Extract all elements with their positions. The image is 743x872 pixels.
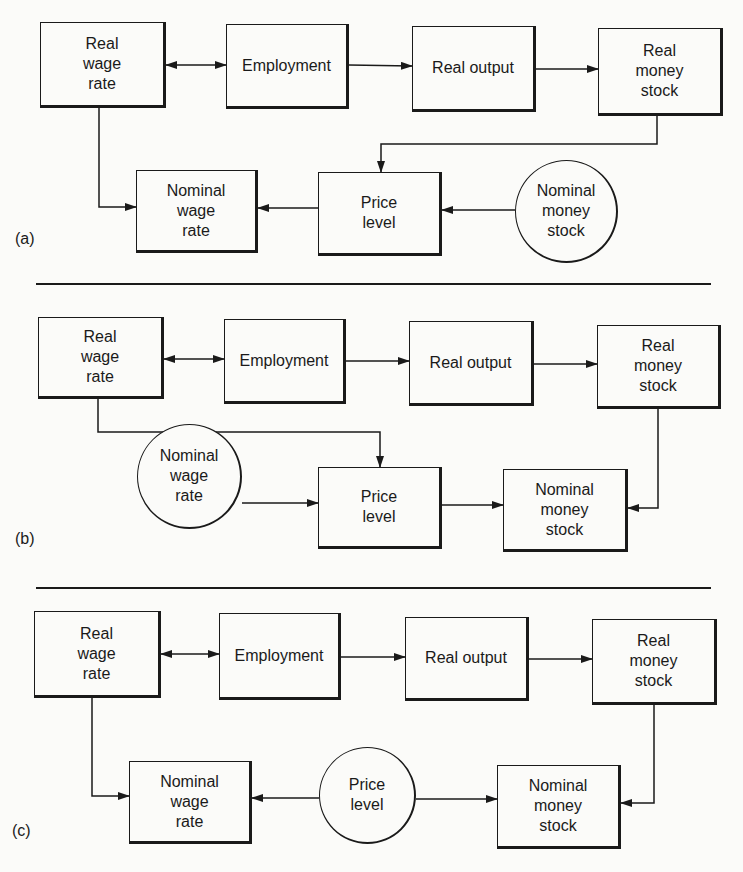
- diagram-connectors: [0, 0, 743, 872]
- arrow-realmoney-price-a: [381, 116, 657, 172]
- separator-bc: [36, 587, 711, 589]
- node-nominal-money-stock: Nominal money stock: [503, 469, 628, 552]
- arrow-realmoney-nominalmoney-b: [628, 409, 658, 508]
- node-nominal-wage-rate: Nominal wage rate: [129, 761, 252, 844]
- node-nominal-money-stock: Nominal money stock: [497, 765, 621, 849]
- node-employment: Employment: [224, 319, 346, 404]
- panel-label-a: (a): [15, 230, 35, 248]
- arrow-realmoney-nominalmoney-c: [621, 705, 654, 803]
- node-real-output: Real output: [412, 26, 536, 112]
- node-nominal-wage-rate-exogenous: Nominal wage rate: [137, 424, 242, 529]
- panel-label-c: (c): [12, 822, 31, 840]
- node-real-output: Real output: [409, 321, 534, 406]
- arrow-realwage-nominalwage-a: [99, 108, 136, 207]
- node-real-wage-rate: Real wage rate: [38, 317, 164, 399]
- node-real-wage-rate: Real wage rate: [40, 22, 166, 108]
- separator-ab: [36, 283, 711, 285]
- panel-label-b: (b): [15, 530, 35, 548]
- arrow-realwage-nominalwage-c: [92, 698, 129, 796]
- node-employment: Employment: [219, 613, 341, 700]
- node-employment: Employment: [226, 24, 349, 109]
- node-nominal-money-stock-exogenous: Nominal money stock: [515, 160, 618, 263]
- node-real-money-stock: Real money stock: [597, 325, 721, 409]
- node-price-level: Price level: [318, 172, 442, 256]
- node-price-level: Price level: [318, 467, 442, 549]
- node-real-money-stock: Real money stock: [592, 619, 717, 705]
- node-real-wage-rate: Real wage rate: [34, 611, 161, 698]
- node-price-level-exogenous: Price level: [319, 747, 416, 844]
- node-real-output: Real output: [405, 617, 529, 701]
- node-nominal-wage-rate: Nominal wage rate: [136, 170, 258, 253]
- arrow-employment-output-a: [349, 65, 412, 66]
- node-real-money-stock: Real money stock: [598, 28, 723, 116]
